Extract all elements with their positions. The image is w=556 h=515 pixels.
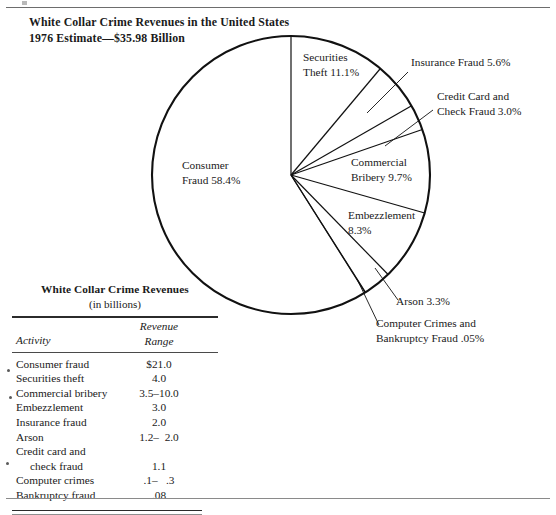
table-cell-revenue: 3.5–10.0 bbox=[118, 387, 200, 399]
pie-label-arson: Arson 3.3% bbox=[396, 294, 450, 309]
revenue-table: White Collar Crime Revenues (in billions… bbox=[12, 282, 218, 515]
table-cell-revenue: .08 bbox=[118, 489, 200, 501]
bottom-divider-rule bbox=[6, 498, 550, 499]
table-cell-revenue: $21.0 bbox=[118, 358, 200, 370]
table-cell-activity: Credit card and bbox=[16, 445, 86, 457]
pie-label-insurance-fraud: Insurance Fraud 5.6% bbox=[411, 55, 510, 70]
table-cell-activity: Bankruptcy fraud bbox=[16, 489, 95, 501]
table-cell-activity: Securities theft bbox=[16, 372, 84, 384]
table-body: Consumer fraud $21.0 Securities theft 4.… bbox=[12, 353, 218, 504]
table-row: Insurance fraud 2.0 bbox=[12, 416, 218, 431]
table-cell-revenue: .1– .3 bbox=[118, 474, 200, 486]
pie-label-securities-theft: Securities Theft 11.1% bbox=[303, 50, 359, 79]
table-cell-activity: Consumer fraud bbox=[16, 358, 89, 370]
pie-label-computer-crimes: Computer Crimes and Bankruptcy Fraud .05… bbox=[376, 316, 484, 345]
pie-label-credit-card-fraud: Credit Card and Check Fraud 3.0% bbox=[437, 89, 521, 118]
table-cell-activity: Insurance fraud bbox=[16, 416, 87, 428]
table-cell-activity: Arson bbox=[16, 431, 44, 443]
table-cell-activity: Computer crimes bbox=[16, 474, 94, 486]
table-row: Arson 1.2– 2.0 bbox=[12, 431, 218, 446]
table-row: check fraud 1.1 bbox=[12, 460, 218, 475]
table-cell-activity: check fraud bbox=[30, 460, 83, 472]
table-column-header-revenue: Revenue Range bbox=[118, 319, 200, 349]
scan-artifact-margin bbox=[6, 462, 9, 465]
table-cell-revenue: 1.2– 2.0 bbox=[118, 431, 200, 443]
table-cell-activity: Commercial bribery bbox=[16, 387, 107, 399]
table-row: Securities theft 4.0 bbox=[12, 372, 218, 387]
table-title: White Collar Crime Revenues bbox=[12, 282, 218, 297]
pie-label-commercial-bribery: Commercial Bribery 9.7% bbox=[351, 155, 412, 184]
table-row: Consumer fraud $21.0 bbox=[12, 358, 218, 373]
table-row: Bankruptcy fraud .08 bbox=[12, 489, 218, 504]
table-cell-revenue: 3.0 bbox=[118, 401, 200, 413]
scan-artifact-margin bbox=[9, 396, 12, 399]
table-cell-activity: Embezzlement bbox=[16, 401, 83, 413]
table-cell-revenue: 2.0 bbox=[118, 416, 200, 428]
table-column-header-activity: Activity bbox=[16, 334, 51, 346]
scan-artifact-margin bbox=[7, 369, 10, 372]
pie-label-embezzlement: Embezzlement 8.3% bbox=[348, 208, 415, 237]
table-subtitle: (in billions) bbox=[12, 297, 218, 312]
table-header-row: Activity Revenue Range bbox=[12, 318, 218, 352]
table-column-header-revenue-line2: Range bbox=[145, 335, 174, 347]
pie-label-consumer-fraud: Consumer Fraud 58.4% bbox=[182, 158, 240, 187]
table-row: Embezzlement 3.0 bbox=[12, 401, 218, 416]
table-row: Credit card and bbox=[12, 445, 218, 460]
table-row: Computer crimes .1– .3 bbox=[12, 474, 218, 489]
table-bottom-rule bbox=[12, 510, 202, 512]
table-column-header-revenue-line1: Revenue bbox=[140, 320, 178, 332]
table-row: Commercial bribery 3.5–10.0 bbox=[12, 387, 218, 402]
table-cell-revenue: 1.1 bbox=[118, 460, 200, 472]
table-cell-revenue: 4.0 bbox=[118, 372, 200, 384]
